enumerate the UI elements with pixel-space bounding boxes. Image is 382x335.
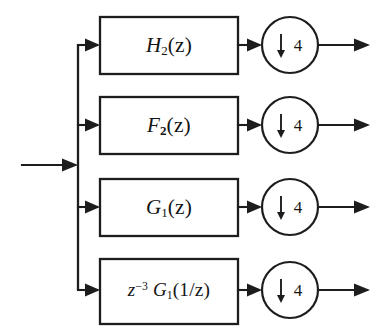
filter-block-4-label: z−3G1(1/z): [128, 280, 211, 302]
downsampler-2-label: 4: [292, 117, 303, 134]
filter-block-1-label: H2(z): [146, 35, 192, 58]
branch-1-block-to-downsampler-wire: [238, 39, 262, 52]
filter-4-prefix-base: z: [128, 279, 136, 300]
branch-3-output-wire: [318, 201, 370, 214]
filter-2-base: F: [147, 113, 160, 137]
filter-3-argument: (z): [168, 195, 192, 219]
downsampler-3-label: 4: [292, 199, 303, 216]
downsampler-2-factor: 4: [294, 116, 303, 135]
downsampler-3-factor: 4: [294, 198, 303, 217]
filter-4-prefix-exponent: −3: [135, 280, 148, 293]
filter-3-base: G: [146, 195, 161, 219]
downsampler-circle-4: [262, 262, 318, 318]
downsampler-4-factor: 4: [294, 281, 303, 300]
downsampler-1-label: 4: [292, 37, 303, 54]
filter-1-base: H: [146, 33, 161, 57]
filter-bank-diagram: H2(z) F2(z) G1(z) z−3G1(1/z) 4 4 4 4: [0, 0, 382, 335]
branch-2-block-to-downsampler-wire: [238, 119, 262, 132]
filter-block-2-label: F2(z): [147, 115, 191, 138]
downsampler-circle-3: [262, 179, 318, 235]
filter-1-argument: (z): [168, 33, 192, 57]
branch-2-output-wire: [318, 119, 370, 132]
branch-2-input-wire: [78, 119, 100, 132]
downsampler-4-label: 4: [292, 282, 303, 299]
branch-4-block-to-downsampler-wire: [238, 284, 262, 297]
branch-3-block-to-downsampler-wire: [238, 201, 262, 214]
downsampler-circle-2: [262, 97, 318, 153]
branch-4-input-wire: [78, 284, 100, 297]
branch-1-output-wire: [318, 39, 370, 52]
filter-block-3-label: G1(z): [146, 197, 192, 220]
filter-2-argument: (z): [167, 113, 191, 137]
filter-4-argument: (1/z): [173, 279, 211, 300]
branch-1-input-wire: [78, 39, 100, 52]
filter-4-base: G: [153, 279, 167, 300]
input-signal-line: [22, 159, 78, 172]
downsampler-circle-1: [262, 17, 318, 73]
branch-4-output-wire: [318, 284, 370, 297]
downsampler-1-factor: 4: [294, 36, 303, 55]
branch-3-input-wire: [78, 201, 100, 214]
